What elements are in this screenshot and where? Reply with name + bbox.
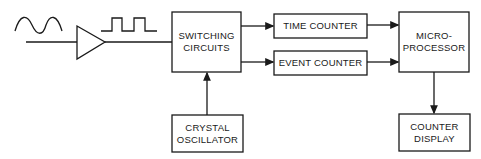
counter-display-label: COUNTER DISPLAY (399, 114, 470, 151)
micro-line1: MICRO- (416, 30, 452, 42)
crystal-line1: CRYSTAL (185, 122, 229, 134)
event-counter-text: EVENT COUNTER (279, 57, 363, 69)
crystal-line2: OSCILLATOR (177, 134, 238, 146)
switching-circuits-label: SWITCHING CIRCUITS (172, 12, 241, 72)
micro-line2: PROCESSOR (403, 42, 466, 54)
sine-wave-icon (15, 17, 62, 33)
switching-line1: SWITCHING (178, 30, 234, 42)
square-wave-icon (101, 18, 157, 31)
crystal-oscillator-label: CRYSTAL OSCILLATOR (172, 115, 243, 152)
microprocessor-label: MICRO- PROCESSOR (399, 12, 469, 72)
amplifier-icon (77, 26, 105, 59)
time-counter-text: TIME COUNTER (283, 20, 358, 32)
event-counter-label: EVENT COUNTER (274, 51, 367, 75)
switching-line2: CIRCUITS (183, 42, 229, 54)
display-line1: COUNTER (410, 121, 458, 133)
time-counter-label: TIME COUNTER (274, 14, 367, 38)
display-line2: DISPLAY (414, 133, 455, 145)
